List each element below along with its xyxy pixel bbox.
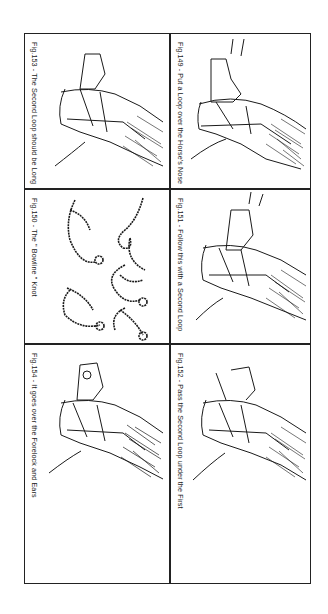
horse-head-forelock-ears-illustration [25, 345, 169, 583]
panel-fig154: Fig.154 - It goes over the Forelock and … [25, 345, 169, 583]
panel-fig153: Fig.153 - The Second Loop should be Long [25, 34, 169, 188]
figure-frame: Fig.149 - Put a Loop over the Horse's No… [24, 33, 311, 584]
panel-fig152: Fig.152 - Pass the Second Loop under the… [171, 345, 311, 583]
panel-fig151: Fig.151 - Follow this with a Second Loop [171, 190, 311, 343]
bowline-knot-illustration [25, 190, 169, 343]
horse-head-loop-over-nose-illustration [171, 34, 311, 188]
horse-head-second-loop-illustration [171, 190, 311, 343]
horse-head-pass-loop-under-illustration [171, 345, 311, 583]
panel-fig149: Fig.149 - Put a Loop over the Horse's No… [171, 34, 311, 188]
panel-fig150: Fig.150 - The " Bowline " Knot [25, 190, 169, 343]
horse-head-long-loop-illustration [25, 34, 169, 188]
